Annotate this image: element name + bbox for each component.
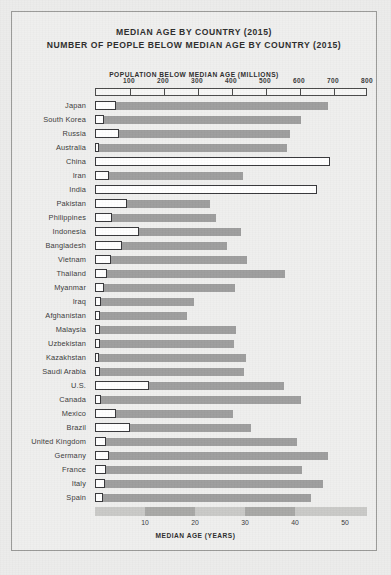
median-age-bar	[95, 172, 243, 180]
bottom-tick-label: 40	[291, 519, 299, 526]
median-age-bar	[95, 270, 285, 278]
population-below-median-age-bar	[95, 101, 116, 110]
population-below-median-age-bar	[95, 339, 100, 348]
chart-row: China	[0, 155, 391, 169]
bottom-tick-label: 10	[141, 519, 149, 526]
chart-row: Russia	[0, 127, 391, 141]
population-below-median-age-bar	[95, 185, 317, 194]
top-tick-label: 400	[225, 77, 237, 84]
population-below-median-age-bar	[95, 129, 119, 138]
top-tick-mark	[164, 89, 165, 95]
chart-row: Mexico	[0, 407, 391, 421]
top-tick-label: 100	[123, 77, 135, 84]
top-tick-mark	[130, 89, 131, 95]
chart-row: Spain	[0, 491, 391, 505]
country-label: Myanmar	[0, 283, 86, 292]
chart-title-line-2: NUMBER OF PEOPLE BELOW MEDIAN AGE BY COU…	[12, 39, 376, 52]
median-age-bar	[95, 102, 328, 110]
country-label: Germany	[0, 451, 86, 460]
chart-row: United Kingdom	[0, 435, 391, 449]
top-tick-mark	[334, 89, 335, 95]
country-label: Pakistan	[0, 199, 86, 208]
country-label: Japan	[0, 101, 86, 110]
population-below-median-age-bar	[95, 115, 104, 124]
median-age-bar	[95, 312, 187, 320]
population-below-median-age-bar	[95, 395, 101, 404]
median-age-bar	[95, 256, 247, 264]
population-below-median-age-bar	[95, 199, 127, 208]
bottom-tick-label: 50	[341, 519, 349, 526]
chart-row: Iran	[0, 169, 391, 183]
bottom-axis-band	[95, 507, 367, 516]
country-label: Australia	[0, 143, 86, 152]
chart-rows: JapanSouth KoreaRussiaAustraliaChinaIran…	[0, 99, 391, 505]
country-label: Mexico	[0, 409, 86, 418]
population-below-median-age-bar	[95, 381, 149, 390]
population-below-median-age-bar	[95, 255, 111, 264]
chart-row: Australia	[0, 141, 391, 155]
country-label: Spain	[0, 493, 86, 502]
population-below-median-age-bar	[95, 157, 330, 166]
top-tick-mark	[266, 89, 267, 95]
population-below-median-age-bar	[95, 367, 100, 376]
country-label: Bangladesh	[0, 241, 86, 250]
bottom-tick-label: 20	[191, 519, 199, 526]
bottom-band-segment	[145, 507, 195, 516]
chart-row: Canada	[0, 393, 391, 407]
median-age-bar	[95, 298, 194, 306]
country-label: India	[0, 185, 86, 194]
chart-row: Malaysia	[0, 323, 391, 337]
country-label: U.S.	[0, 381, 86, 390]
bottom-band-segment	[245, 507, 295, 516]
country-label: China	[0, 157, 86, 166]
population-below-median-age-bar	[95, 437, 106, 446]
chart-row: Indonesia	[0, 225, 391, 239]
chart-row: Myanmar	[0, 281, 391, 295]
country-label: France	[0, 465, 86, 474]
median-age-bar	[95, 480, 323, 488]
population-below-median-age-bar	[95, 227, 139, 236]
median-age-bar	[95, 284, 235, 292]
country-label: Iraq	[0, 297, 86, 306]
bottom-tick-label: 30	[241, 519, 249, 526]
chart-row: Brazil	[0, 421, 391, 435]
chart-row: Germany	[0, 449, 391, 463]
country-label: Philippines	[0, 213, 86, 222]
country-label: Vietnam	[0, 255, 86, 264]
chart-title-line-1: MEDIAN AGE BY COUNTRY (2015)	[12, 26, 376, 39]
top-axis-scale-box	[95, 88, 367, 96]
chart-row: Japan	[0, 99, 391, 113]
median-age-bar	[95, 452, 328, 460]
chart-row: Thailand	[0, 267, 391, 281]
population-below-median-age-bar	[95, 479, 105, 488]
country-label: Iran	[0, 171, 86, 180]
population-below-median-age-bar	[95, 423, 130, 432]
top-tick-mark	[300, 89, 301, 95]
population-below-median-age-bar	[95, 409, 116, 418]
population-below-median-age-bar	[95, 465, 106, 474]
chart-row: Pakistan	[0, 197, 391, 211]
top-tick-mark	[198, 89, 199, 95]
population-below-median-age-bar	[95, 283, 104, 292]
country-label: Russia	[0, 129, 86, 138]
population-below-median-age-bar	[95, 143, 99, 152]
top-tick-label: 300	[191, 77, 203, 84]
country-label: Canada	[0, 395, 86, 404]
median-age-bar	[95, 466, 302, 474]
chart-row: Philippines	[0, 211, 391, 225]
country-label: Thailand	[0, 269, 86, 278]
top-tick-label: 800	[361, 77, 373, 84]
country-label: Afghanistan	[0, 311, 86, 320]
country-label: Indonesia	[0, 227, 86, 236]
chart-row: Iraq	[0, 295, 391, 309]
top-tick-label: 600	[293, 77, 305, 84]
chart-row: Vietnam	[0, 253, 391, 267]
bottom-axis-title: MEDIAN AGE (YEARS)	[0, 532, 391, 539]
top-tick-label: 500	[259, 77, 271, 84]
median-age-bar	[95, 494, 311, 502]
population-below-median-age-bar	[95, 493, 103, 502]
population-below-median-age-bar	[95, 213, 112, 222]
country-label: Malaysia	[0, 325, 86, 334]
chart-row: Italy	[0, 477, 391, 491]
median-age-bar	[95, 116, 301, 124]
